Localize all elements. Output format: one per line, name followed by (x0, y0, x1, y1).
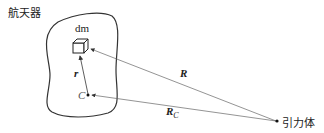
center-label: C (78, 89, 85, 101)
position-vector-label: r (74, 67, 78, 79)
diagram-canvas (0, 0, 324, 133)
distance-vector-label: R (180, 67, 187, 79)
mass-element-cube-icon (73, 39, 88, 53)
attracting-body-label: 引力体 (282, 114, 315, 130)
attracting-body-point (275, 119, 278, 122)
spacecraft-label: 航天器 (8, 4, 41, 20)
R-vector (91, 49, 276, 121)
Rc-vector (92, 95, 276, 121)
center-of-mass-point (87, 94, 90, 97)
mass-element-label: dm (75, 22, 89, 34)
center-distance-label: RC (166, 105, 179, 120)
